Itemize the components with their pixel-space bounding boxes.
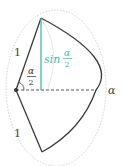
sine-label-prefix: sin [44, 53, 60, 66]
half-angle-arc [19, 83, 24, 91]
sine-label-denominator: 2 [65, 60, 70, 69]
center-point [14, 88, 18, 92]
side-label-top: 1 [14, 46, 21, 59]
side-label-bottom: 1 [14, 127, 21, 140]
arc-angle-label: α [108, 84, 116, 97]
sine-label-numerator: α [64, 48, 70, 58]
half-angle-denominator: 2 [29, 78, 34, 87]
half-angle-numerator: α [28, 66, 34, 76]
sector-diagram: 1 1 α 2 sin α 2 α [0, 0, 123, 166]
radius-bottom [16, 90, 42, 152]
